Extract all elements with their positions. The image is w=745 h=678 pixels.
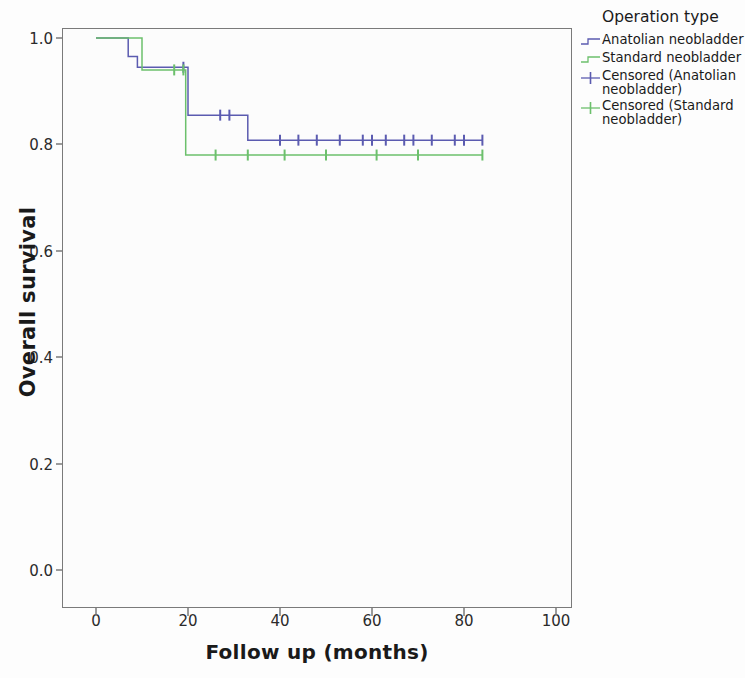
step-line-icon — [580, 34, 602, 50]
survival-step-line — [96, 38, 482, 140]
legend-title: Operation type — [602, 8, 745, 26]
series-anatolian — [96, 38, 482, 146]
legend-item-anatolian-neobladder[interactable]: Anatolian neobladder — [580, 33, 745, 50]
legend-item-censored-anatolian[interactable]: Censored (Anatolian neobladder) — [580, 69, 745, 98]
legend-item-label: Censored (Anatolian neobladder) — [602, 69, 745, 98]
step-line-icon — [580, 52, 602, 68]
legend-item-label: Standard neobladder — [602, 51, 741, 65]
legend-item-label: Anatolian neobladder — [602, 33, 744, 47]
axis-ticks — [56, 38, 556, 616]
legend: Operation type Anatolian neobladder Stan… — [580, 8, 745, 129]
plus-marker-icon — [580, 70, 602, 86]
legend-item-label: Censored (Standard neobladder) — [602, 99, 745, 128]
series-standard — [96, 38, 482, 161]
legend-item-standard-neobladder[interactable]: Standard neobladder — [580, 51, 745, 68]
legend-item-censored-standard[interactable]: Censored (Standard neobladder) — [580, 99, 745, 128]
plus-marker-icon — [580, 100, 602, 116]
kaplan-meier-figure: 1.0 0.8 0.6 0.4 0.2 0.0 0 20 40 60 80 10… — [0, 0, 745, 678]
survival-step-line — [96, 38, 482, 155]
series-layer — [96, 38, 482, 161]
